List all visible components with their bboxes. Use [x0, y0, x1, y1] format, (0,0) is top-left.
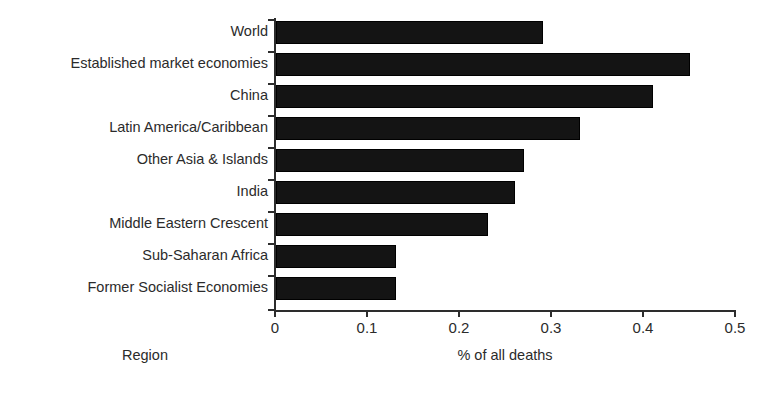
x-axis-tick: [458, 310, 460, 317]
y-axis-tick: [268, 19, 275, 21]
category-label-sub-saharan-africa: Sub-Saharan Africa: [0, 248, 268, 263]
y-axis-tick: [268, 51, 275, 53]
bar-sub-saharan-africa: [276, 245, 396, 268]
x-axis-line: [274, 310, 736, 312]
y-axis-title: Region: [45, 348, 245, 363]
x-tick-label-0.1: 0.1: [357, 320, 378, 335]
x-axis-tick: [274, 310, 276, 317]
bar-middle-eastern-crescent: [276, 213, 488, 236]
y-axis-tick: [268, 179, 275, 181]
y-axis-tick: [268, 243, 275, 245]
category-label-china: China: [0, 88, 268, 103]
x-tick-label-0: 0: [271, 320, 279, 335]
x-tick-label-0.4: 0.4: [633, 320, 654, 335]
bar-china: [276, 85, 653, 108]
y-axis-tick: [268, 211, 275, 213]
x-tick-label-0.2: 0.2: [449, 320, 470, 335]
category-label-established-market-economies: Established market economies: [0, 56, 268, 71]
category-label-india: India: [0, 184, 268, 199]
category-label-latin-america-caribbean: Latin America/Caribbean: [0, 120, 268, 135]
bar-former-socialist-economies: [276, 277, 396, 300]
y-axis-tick: [268, 115, 275, 117]
x-axis-tick: [550, 310, 552, 317]
bar-chart: World Established market economies China…: [0, 0, 769, 393]
x-axis-tick: [734, 310, 736, 317]
bar-established-market-economies: [276, 53, 690, 76]
x-axis-tick: [366, 310, 368, 317]
x-axis-title: % of all deaths: [275, 348, 735, 363]
y-axis-tick: [268, 275, 275, 277]
plot-area: 0 0.1 0.2 0.3 0.4 0.5: [275, 20, 735, 310]
bar-other-asia-islands: [276, 149, 524, 172]
category-label-world: World: [0, 24, 268, 39]
bar-world: [276, 21, 543, 44]
y-axis-tick: [268, 147, 275, 149]
y-axis-tick: [268, 83, 275, 85]
category-label-middle-eastern-crescent: Middle Eastern Crescent: [0, 216, 268, 231]
bar-india: [276, 181, 515, 204]
bar-latin-america-caribbean: [276, 117, 580, 140]
category-label-other-asia-islands: Other Asia & Islands: [0, 152, 268, 167]
x-tick-label-0.3: 0.3: [541, 320, 562, 335]
x-tick-label-0.5: 0.5: [725, 320, 746, 335]
category-axis-labels: World Established market economies China…: [0, 20, 268, 310]
x-axis-tick: [642, 310, 644, 317]
category-label-former-socialist-economies: Former Socialist Economies: [0, 280, 268, 295]
